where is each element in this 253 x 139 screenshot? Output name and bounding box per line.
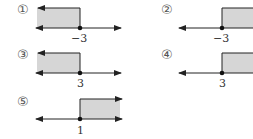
option-2-number-line: −3 bbox=[179, 8, 253, 45]
option-3-number-line: 3 bbox=[36, 53, 121, 90]
option-4-number-line: 3 bbox=[179, 53, 253, 90]
option-5-point-label: 1 bbox=[77, 124, 84, 137]
option-1-number-line: −3 bbox=[36, 8, 121, 45]
option-1-point-label: −3 bbox=[71, 32, 87, 45]
number-lines-figure: −3 −3 3 3 1 bbox=[0, 0, 253, 139]
option-4-point-label: 3 bbox=[219, 77, 226, 90]
option-3-point-label: 3 bbox=[77, 77, 84, 90]
option-5-number-line: 1 bbox=[36, 99, 122, 137]
option-2-point-label: −3 bbox=[213, 32, 229, 45]
